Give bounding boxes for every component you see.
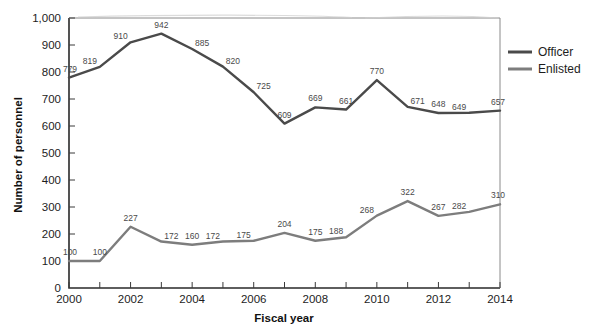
data-point-label: 649: [452, 102, 466, 112]
data-point-label: 172: [206, 231, 220, 241]
data-point-label: 725: [257, 81, 271, 91]
plot-border: [69, 18, 500, 288]
y-axis-title: Number of personnel: [12, 97, 24, 213]
y-tick-label: 100: [42, 255, 61, 267]
x-tick-label: 2010: [364, 293, 390, 305]
line-chart-canvas: 01002003004005006007008009001,000 200020…: [0, 0, 590, 335]
data-point-label: 267: [431, 202, 445, 212]
data-point-label: 671: [411, 96, 425, 106]
x-axis-ticks: 20002002200420062008201020122014: [56, 282, 513, 305]
y-tick-label: 900: [42, 39, 61, 51]
data-point-label: 609: [277, 110, 291, 120]
y-tick-label: 700: [42, 93, 61, 105]
data-point-label: 657: [491, 97, 505, 107]
data-point-label: 227: [124, 213, 138, 223]
data-point-label: 172: [164, 231, 178, 241]
data-point-label: 910: [114, 31, 128, 41]
chart-figure: 01002003004005006007008009001,000 200020…: [0, 0, 590, 335]
x-tick-label: 2014: [487, 293, 513, 305]
data-point-label: 175: [237, 230, 251, 240]
data-point-label: 188: [329, 226, 343, 236]
y-tick-label: 300: [42, 201, 61, 213]
chart-legend: OfficerEnlisted: [508, 45, 581, 76]
y-tick-label: 1,000: [32, 12, 61, 24]
x-tick-label: 2012: [426, 293, 452, 305]
data-point-label: 885: [195, 38, 209, 48]
data-point-label: 322: [401, 187, 415, 197]
data-point-label: 770: [370, 66, 384, 76]
data-point-label: 669: [308, 93, 322, 103]
axis-lines: [69, 18, 500, 288]
data-point-label: 175: [308, 227, 322, 237]
x-tick-label: 2006: [241, 293, 267, 305]
data-point-label: 100: [93, 247, 107, 257]
data-point-label: 661: [339, 96, 353, 106]
data-point-label: 779: [63, 64, 77, 74]
scan-artifact: [78, 15, 352, 17]
plot-frame: [69, 18, 500, 288]
x-axis-title: Fiscal year: [254, 312, 314, 324]
y-tick-label: 200: [42, 228, 61, 240]
data-point-label: 268: [360, 205, 374, 215]
legend-label-enlisted: Enlisted: [538, 62, 581, 76]
x-tick-label: 2000: [56, 293, 82, 305]
x-tick-label: 2002: [118, 293, 144, 305]
data-point-label: 282: [452, 201, 466, 211]
y-tick-label: 600: [42, 120, 61, 132]
y-tick-label: 400: [42, 174, 61, 186]
legend-label-officer: Officer: [538, 45, 573, 59]
data-point-label: 160: [185, 231, 199, 241]
data-point-label: 819: [83, 56, 97, 66]
x-tick-label: 2008: [302, 293, 328, 305]
data-point-label: 820: [226, 56, 240, 66]
y-tick-label: 800: [42, 66, 61, 78]
y-tick-label: 0: [55, 282, 61, 294]
data-point-label: 310: [491, 190, 505, 200]
data-point-label: 204: [277, 219, 291, 229]
y-tick-label: 500: [42, 147, 61, 159]
data-point-label: 648: [431, 99, 445, 109]
data-point-label: 100: [63, 247, 77, 257]
data-point-label: 942: [154, 20, 168, 30]
data-point-labels: 7798199109428858207256096696617706716486…: [63, 20, 505, 257]
x-tick-label: 2004: [179, 293, 205, 305]
